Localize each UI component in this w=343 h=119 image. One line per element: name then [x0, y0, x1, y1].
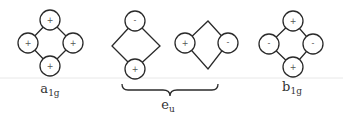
eu-combination-2: + - [175, 21, 238, 69]
b1g-top-sign: + [290, 17, 297, 26]
a1g-left-sign: + [25, 39, 32, 48]
a1g-bottom-sign: + [47, 62, 54, 71]
orbital-diagram: + + + + a1g - + + - eu + - - + b1g [0, 0, 343, 119]
eu-combination-1: - + [112, 11, 160, 79]
a1g-right-sign: + [70, 39, 77, 48]
b1g-bottom-sign: + [290, 63, 297, 72]
b1g-right-sign: - [312, 39, 315, 48]
a1g-top-sign: + [47, 16, 54, 25]
b1g-combination: + - - + b1g [259, 11, 323, 96]
a1g-combination: + + + + a1g [18, 10, 83, 98]
b1g-label: b1g [282, 79, 302, 96]
b1g-left-sign: - [268, 39, 271, 48]
eu1-bottom-sign: + [132, 65, 139, 74]
a1g-label: a1g [40, 81, 59, 98]
eu1-top-sign: - [134, 16, 137, 25]
eu2-left-sign: + [182, 39, 189, 48]
eu-label: eu [161, 97, 175, 114]
eu2-right-sign: - [227, 38, 230, 47]
eu-grouping-brace [122, 84, 218, 96]
